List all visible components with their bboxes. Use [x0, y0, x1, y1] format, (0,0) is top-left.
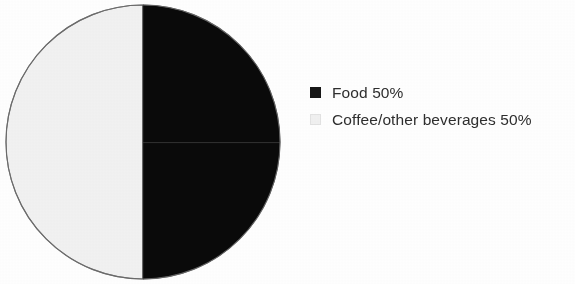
pie-chart-svg [4, 3, 282, 281]
legend-swatch-coffee-other-beverages-icon [310, 114, 321, 125]
pie-chart [4, 3, 282, 281]
legend-item-food[interactable]: Food 50% [310, 79, 572, 106]
legend-item-coffee-other-beverages[interactable]: Coffee/other beverages 50% [310, 106, 572, 133]
chart-legend: Food 50% Coffee/other beverages 50% [310, 79, 572, 133]
legend-label-food: Food 50% [332, 85, 403, 101]
pie-chart-figure: Food 50% Coffee/other beverages 50% [0, 0, 575, 284]
legend-swatch-food-icon [310, 87, 321, 98]
legend-label-coffee-other-beverages: Coffee/other beverages 50% [332, 112, 532, 128]
